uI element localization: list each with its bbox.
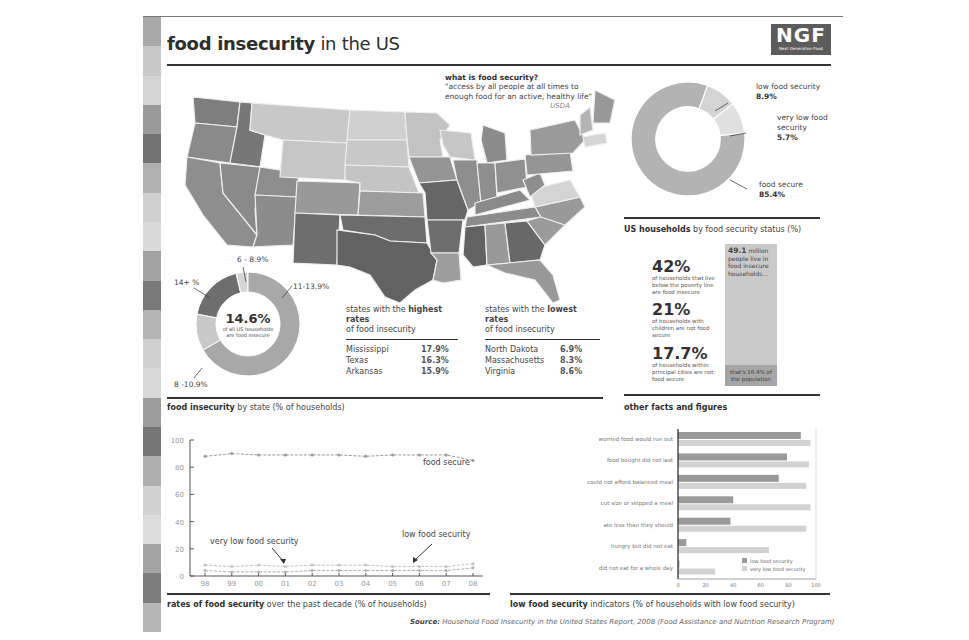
svg-text:06: 06: [415, 580, 424, 588]
svg-text:cut size or skipped a meal: cut size or skipped a meal: [601, 500, 674, 507]
state-name: Arkansas: [346, 366, 421, 377]
logo-text: NGF: [771, 24, 831, 46]
svg-text:80: 80: [785, 582, 791, 588]
ngf-logo: NGF Next Generation Food: [771, 24, 831, 55]
state-ar: [427, 220, 463, 253]
table-row: North Dakota6.9%: [485, 344, 600, 355]
caption-bold: food insecurity: [167, 403, 235, 412]
stat-children: 21% of households with children are not …: [652, 301, 722, 339]
svg-text:60: 60: [175, 491, 184, 499]
highest-rates-table: states with the highest ratesof food ins…: [346, 305, 458, 377]
status-low-label: low food security8.9%: [756, 82, 820, 102]
svg-text:40: 40: [175, 519, 184, 527]
svg-text:40: 40: [730, 582, 736, 588]
state-ks: [358, 191, 425, 217]
state-co: [295, 181, 360, 215]
state-la: [431, 253, 461, 283]
segment-label: low food security: [756, 82, 820, 91]
svg-text:00: 00: [254, 580, 263, 588]
logo-subtext: Next Generation Food: [771, 46, 831, 52]
label-food-secure: food secure: [423, 458, 470, 468]
facts-caption: other facts and figures: [624, 403, 727, 412]
caption-rest: indicators (% of households with low foo…: [588, 600, 795, 609]
highest-rates-heading: states with the highest ratesof food ins…: [346, 305, 458, 340]
segment-label-line1: very low food: [777, 113, 828, 122]
status-donut: [630, 75, 750, 205]
svg-text:20: 20: [175, 546, 184, 554]
state-name: Virginia: [485, 366, 560, 377]
state-ma: [583, 133, 607, 147]
source-label: Source:: [410, 618, 440, 626]
stat-number: 42%: [652, 258, 722, 275]
bar-chart-caption: low food security indicators (% of house…: [510, 600, 795, 609]
stat-number: 21%: [652, 301, 722, 318]
top-border: [143, 16, 843, 17]
lowest-rates-table: states with the lowest ratesof food inse…: [485, 305, 600, 377]
stat-number: 17.7%: [652, 345, 722, 362]
state-name: Texas: [346, 355, 421, 366]
table-row: Massachusetts8.3%: [485, 355, 600, 366]
bar-chart-bars: worried food would run outfood bought di…: [587, 429, 821, 588]
source-text: Household Food Insecurity in the United …: [440, 618, 835, 626]
segment-label: food secure: [759, 180, 803, 189]
segment-value: 8.9%: [756, 92, 777, 101]
state-name: Mississippi: [346, 344, 421, 355]
svg-text:food bought did not last: food bought did not last: [607, 457, 674, 464]
segment-label-line2: security: [777, 123, 807, 132]
state-value: 8.6%: [560, 366, 582, 377]
state-sd: [345, 140, 409, 167]
stat-description: of households within principal cities ar…: [652, 362, 722, 383]
map-caption: food insecurity by state (% of household…: [167, 403, 345, 412]
svg-text:0: 0: [676, 582, 679, 588]
stat-description: of households that live below the povert…: [652, 275, 722, 296]
svg-text:99: 99: [227, 580, 236, 588]
caption-rest: by state (% of households): [235, 403, 345, 412]
line-chart-rule: [167, 593, 490, 595]
svg-text:ate less than they should: ate less than they should: [603, 522, 673, 529]
status-rule: [624, 217, 820, 219]
bar-chart-rule: [510, 593, 830, 595]
state-vt: [580, 107, 593, 135]
state-nm: [293, 213, 340, 265]
map-section-rule: [167, 397, 603, 399]
svg-text:low food security: low food security: [750, 558, 793, 565]
caption-rest: over the past decade (% of households): [264, 600, 426, 609]
state-wy: [280, 140, 347, 180]
lowest-rates-heading: states with the lowest ratesof food inse…: [485, 305, 600, 340]
svg-text:60: 60: [758, 582, 764, 588]
status-secure-label: food secure85.4%: [759, 180, 803, 200]
annotation-arrows: [260, 540, 460, 580]
state-wi: [440, 130, 475, 160]
svg-text:05: 05: [388, 580, 397, 588]
table-row: Texas16.3%: [346, 355, 458, 366]
svg-text:100: 100: [811, 582, 821, 588]
source-note: Source: Household Food Insecurity in the…: [410, 618, 835, 626]
title-bold: food insecurity: [167, 33, 315, 54]
facts-rule: [624, 394, 820, 396]
svg-text:01: 01: [281, 580, 290, 588]
state-me: [593, 90, 615, 123]
status-caption: US households by food security status (%…: [624, 225, 801, 234]
state-value: 8.3%: [560, 355, 582, 366]
population-bar-bottom-text: that's 16.4% of the population: [728, 369, 774, 383]
decorative-stripe: [143, 17, 161, 632]
svg-text:98: 98: [201, 580, 210, 588]
heading-pre: states with the: [485, 305, 547, 314]
table-row: Mississippi17.9%: [346, 344, 458, 355]
svg-text:100: 100: [171, 437, 184, 445]
state-ia: [409, 157, 457, 183]
svg-text:08: 08: [469, 580, 478, 588]
svg-text:very low food security: very low food security: [750, 566, 805, 573]
svg-text:02: 02: [308, 580, 317, 588]
state-ms: [463, 225, 487, 267]
title-rest: in the US: [315, 33, 400, 54]
svg-text:worried food would run out: worried food would run out: [599, 436, 674, 442]
stat-description: of households with children are not food…: [652, 318, 722, 339]
legend-leader-lines: [180, 260, 310, 390]
state-fl: [487, 260, 560, 303]
heading-post: of food insecurity: [485, 325, 555, 334]
state-nd: [347, 110, 407, 140]
state-name: Massachusetts: [485, 355, 560, 366]
header-rule: [167, 64, 831, 66]
state-wa: [193, 97, 240, 127]
